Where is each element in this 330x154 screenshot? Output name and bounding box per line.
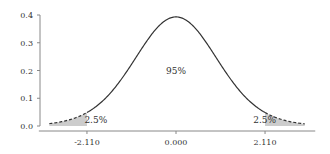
y-axis: 0.00.10.20.30.4 (20, 11, 40, 131)
x-tick-label: -2.110 (74, 138, 100, 147)
y-tick-label: 0.4 (20, 11, 33, 20)
x-axis: -2.1100.0002.110 (39, 131, 315, 147)
y-tick-label: 0.2 (20, 67, 33, 76)
right-tail-label: 2.5% (253, 115, 276, 125)
y-tick-label: 0.3 (20, 39, 33, 48)
x-tick-label: 2.110 (254, 138, 277, 147)
t-distribution-chart: 0.00.10.20.30.4 -2.1100.0002.110 2.5%95%… (0, 0, 330, 154)
left-tail-label: 2.5% (84, 115, 107, 125)
y-tick-label: 0.0 (20, 122, 33, 131)
left-tail-area (49, 113, 87, 126)
center-label: 95% (166, 66, 186, 76)
region-labels: 2.5%95%2.5% (84, 66, 276, 126)
y-tick-label: 0.1 (20, 94, 33, 103)
x-tick-label: 0.000 (165, 138, 188, 147)
